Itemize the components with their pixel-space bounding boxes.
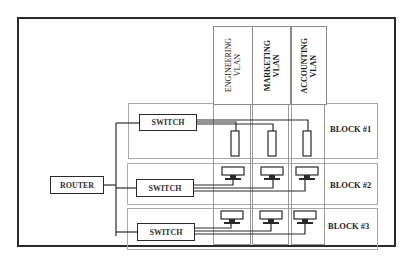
server-icons: [231, 131, 311, 156]
block-1-label: BLOCK #1: [330, 124, 371, 134]
switch-block-3: SWITCH: [137, 223, 195, 241]
block-3-label: BLOCK #3: [328, 221, 369, 231]
workstation-icons-block-2: [222, 167, 318, 180]
block-2-label: BLOCK #2: [330, 180, 371, 190]
switch-block-1: SWITCH: [139, 114, 197, 131]
switch-block-2: SWITCH: [136, 179, 194, 197]
workstation-icons-block-3: [221, 211, 316, 224]
network-wiring: [0, 0, 413, 279]
router-box: ROUTER: [50, 176, 104, 194]
